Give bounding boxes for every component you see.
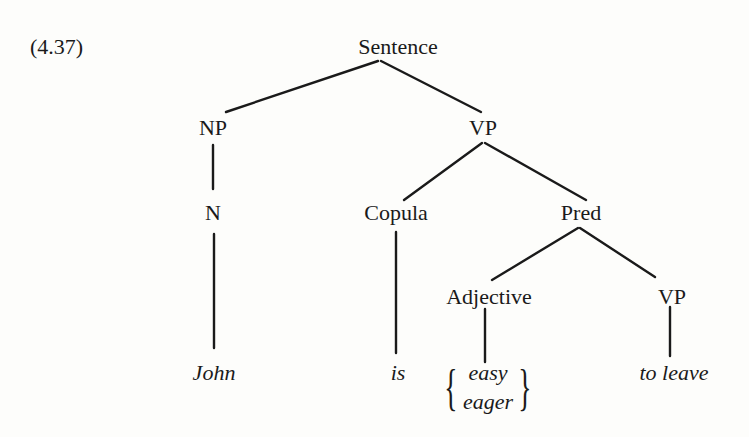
node-np: NP: [199, 117, 227, 139]
left-brace-icon: {: [444, 362, 457, 412]
node-copula: Copula: [364, 202, 428, 224]
edge-sentence-np: [226, 61, 378, 112]
edge-vp-copula: [404, 143, 482, 200]
leaf-is: is: [391, 362, 406, 384]
edge-pred-adjective: [492, 228, 578, 280]
node-vp: VP: [469, 117, 497, 139]
edge-pred-vp: [580, 228, 655, 277]
node-n: N: [205, 202, 221, 224]
leaf-john: John: [193, 362, 236, 384]
alternatives-stack: easy eager: [463, 358, 513, 416]
node-pred: Pred: [561, 202, 601, 224]
leaf-easy: easy: [468, 358, 507, 387]
syntax-tree-figure: (4.37) Sentence NP VP N Copula Pred Adje…: [0, 0, 749, 437]
leaf-eager: eager: [463, 387, 513, 416]
leaf-to-leave: to leave: [639, 362, 708, 384]
node-sentence: Sentence: [358, 36, 437, 58]
leaf-adjective-alternatives: { easy eager }: [439, 358, 537, 416]
edge-sentence-vp: [381, 61, 481, 112]
right-brace-icon: }: [518, 362, 531, 412]
edge-vp-pred: [485, 143, 586, 200]
node-adjective: Adjective: [446, 286, 532, 308]
example-number: (4.37): [30, 36, 83, 58]
node-vp-embedded: VP: [658, 286, 686, 308]
